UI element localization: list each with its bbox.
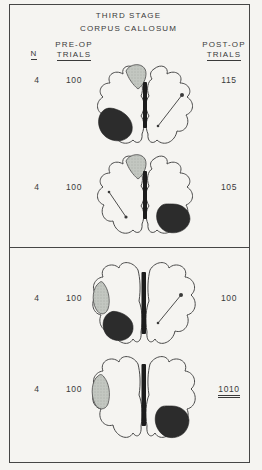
row1-post-op-number: 115 (221, 75, 236, 85)
column-header-n: N (24, 49, 44, 60)
corpus-callosum-bar (142, 272, 147, 334)
right-hemisphere (146, 263, 195, 344)
column-header-n-label: N (31, 49, 38, 60)
row4-pre-op-value: 100 (60, 384, 88, 394)
column-header-pre-op: PRE-OP TRIALS (46, 40, 102, 61)
lesion-area-dark (157, 204, 190, 233)
figure-title-line1: THIRD STAGE (9, 11, 248, 20)
post-op-label-line2: TRIALS (207, 50, 242, 61)
row3-post-op-value: 100 (212, 293, 246, 303)
row1-pre-op-value: 100 (60, 75, 88, 85)
corpus-callosum-bar (142, 364, 147, 426)
row1-post-op-value: 115 (212, 75, 246, 85)
column-header-post-op: POST-OP TRIALS (194, 40, 254, 61)
row2-pre-op-value: 100 (60, 182, 88, 192)
row1-n-value: 4 (28, 75, 46, 85)
post-op-label-line1: POST-OP (194, 40, 254, 49)
brain-diagram-row4 (88, 352, 200, 446)
brain-diagram-row2 (92, 152, 198, 238)
row4-n-value: 4 (28, 384, 46, 394)
figure-title-line2: CORPUS CALLOSUM (9, 24, 248, 33)
pre-op-label-line1: PRE-OP (46, 40, 102, 49)
row3-n-value: 4 (28, 293, 46, 303)
pre-op-label-line2: TRIALS (57, 50, 92, 61)
figure-third-stage-corpus-callosum: THIRD STAGE CORPUS CALLOSUM N PRE-OP TRI… (0, 0, 262, 470)
row2-post-op-value: 105 (212, 182, 246, 192)
right-hemisphere (146, 66, 193, 143)
lesion-area-dark (155, 406, 189, 438)
brain-diagram-row3 (88, 258, 200, 352)
panel-divider-line (10, 247, 249, 248)
brain-diagram-row1 (92, 62, 198, 148)
row2-post-op-number: 105 (221, 182, 237, 192)
row2-n-value: 4 (28, 182, 46, 192)
row3-pre-op-value: 100 (60, 293, 88, 303)
row3-post-op-number: 100 (221, 293, 237, 303)
corpus-callosum-bar (143, 82, 147, 128)
row4-post-op-value: 1010 (212, 384, 246, 398)
row4-post-op-number: 1010 (218, 384, 239, 398)
corpus-callosum-bar (143, 171, 147, 219)
